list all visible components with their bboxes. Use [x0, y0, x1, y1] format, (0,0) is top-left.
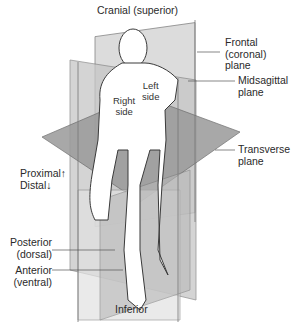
label-frontal-line3: plane [225, 60, 266, 72]
label-midsagittal-line1: Midsagittal [238, 75, 288, 87]
label-left-side: Left side [142, 81, 159, 102]
label-frontal-line1: Frontal [225, 37, 266, 49]
label-inferior: Inferior [115, 304, 148, 316]
label-left-line1: Left [142, 81, 159, 92]
label-posterior-line1: Posterior [8, 237, 52, 249]
label-anterior-line2: (ventral) [8, 277, 52, 289]
label-cranial-superior: Cranial (superior) [97, 5, 178, 17]
label-posterior-line2: (dorsal) [8, 249, 52, 261]
label-transverse-plane: Transverse plane [238, 144, 290, 167]
label-proximal: Proximal↑ [20, 168, 66, 180]
label-transverse-line2: plane [238, 156, 290, 168]
label-midsagittal-line2: plane [238, 87, 288, 99]
label-proximal-distal: Proximal↑ Distal↓ [20, 168, 66, 191]
label-transverse-line1: Transverse [238, 144, 290, 156]
label-anterior-line1: Anterior [8, 265, 52, 277]
label-right-line1: Right [113, 96, 135, 107]
label-right-line2: side [113, 107, 135, 118]
label-frontal-plane: Frontal (coronal) plane [225, 37, 266, 72]
label-left-line2: side [142, 92, 159, 103]
label-midsagittal-plane: Midsagittal plane [238, 75, 288, 98]
label-posterior-dorsal: Posterior (dorsal) [8, 237, 52, 260]
label-anterior-ventral: Anterior (ventral) [8, 265, 52, 288]
label-distal: Distal↓ [20, 180, 66, 192]
label-right-side: Right side [113, 96, 135, 117]
